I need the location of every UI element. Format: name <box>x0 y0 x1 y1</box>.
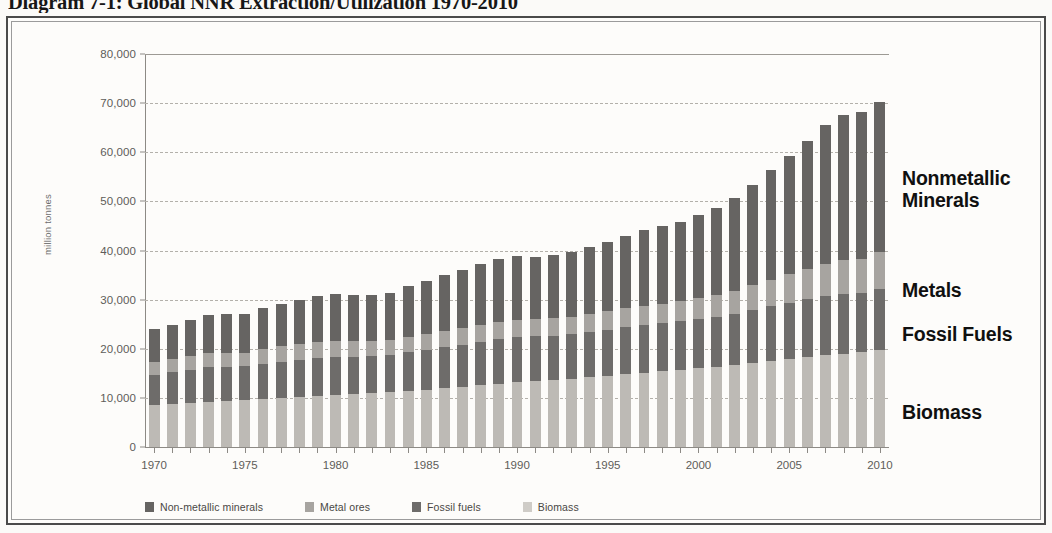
bar-segment-biomass <box>457 387 468 447</box>
x-tick-mark <box>735 448 736 453</box>
bar-segment-biomass <box>348 394 359 447</box>
bar-segment-nonmet <box>457 270 468 328</box>
legend-item-1[interactable]: Metal ores <box>305 501 370 513</box>
bar-1980[interactable] <box>330 294 341 447</box>
bar-1979[interactable] <box>312 296 323 447</box>
bar-1995[interactable] <box>602 242 613 447</box>
bar-segment-biomass <box>403 391 414 447</box>
y-tick-mark <box>140 250 145 251</box>
bar-1983[interactable] <box>385 293 396 447</box>
bar-segment-fossil <box>475 342 486 385</box>
bar-segment-nonmet <box>439 275 450 331</box>
bar-1978[interactable] <box>294 300 305 447</box>
bar-segment-fossil <box>620 327 631 374</box>
y-tick-mark <box>140 54 145 55</box>
bar-1997[interactable] <box>639 230 650 447</box>
bar-1982[interactable] <box>366 295 377 447</box>
bar-1984[interactable] <box>403 286 414 447</box>
bar-1993[interactable] <box>566 252 577 447</box>
bar-1971[interactable] <box>167 325 178 447</box>
bar-1972[interactable] <box>185 320 196 447</box>
bar-1999[interactable] <box>675 222 686 447</box>
bar-1990[interactable] <box>512 256 523 447</box>
bar-1977[interactable] <box>276 304 287 447</box>
bar-segment-nonmet <box>348 295 359 341</box>
x-tick-mark <box>281 448 282 453</box>
bar-segment-nonmet <box>820 125 831 264</box>
bar-1986[interactable] <box>439 275 450 447</box>
legend-label: Fossil fuels <box>427 501 481 513</box>
bar-2006[interactable] <box>802 141 813 447</box>
x-tick-mark <box>426 448 427 453</box>
bar-2000[interactable] <box>693 215 704 447</box>
bar-segment-biomass <box>221 401 232 447</box>
bar-segment-nonmet <box>475 264 486 325</box>
bar-1994[interactable] <box>584 247 595 447</box>
bar-2007[interactable] <box>820 125 831 447</box>
bar-1975[interactable] <box>239 314 250 447</box>
bar-2002[interactable] <box>729 198 740 447</box>
bar-segment-biomass <box>693 368 704 447</box>
bar-segment-metal <box>403 337 414 352</box>
bar-2004[interactable] <box>766 170 777 447</box>
bar-1988[interactable] <box>475 264 486 447</box>
bar-segment-fossil <box>294 360 305 398</box>
x-tick-mark <box>209 448 210 453</box>
y-tick-mark <box>140 397 145 398</box>
bar-segment-metal <box>475 325 486 342</box>
bar-segment-biomass <box>149 405 160 447</box>
bar-1976[interactable] <box>258 308 269 447</box>
x-tick-label: 1995 <box>595 459 621 471</box>
x-tick-mark <box>862 448 863 453</box>
bar-segment-nonmet <box>711 208 722 295</box>
bar-segment-metal <box>348 341 359 356</box>
y-tick-label: 70,000 <box>100 97 136 109</box>
bar-segment-biomass <box>330 395 341 447</box>
bar-segment-nonmet <box>366 295 377 341</box>
plot-inner: 010,00020,00030,00040,00050,00060,00070,… <box>145 54 889 448</box>
x-tick-mark <box>807 448 808 453</box>
bar-segment-biomass <box>276 398 287 447</box>
bar-1998[interactable] <box>657 226 668 447</box>
bar-2009[interactable] <box>856 112 867 447</box>
bar-segment-metal <box>639 306 650 325</box>
bar-segment-metal <box>185 356 196 370</box>
x-tick-mark <box>227 448 228 453</box>
bar-1987[interactable] <box>457 270 468 447</box>
bar-segment-metal <box>421 334 432 350</box>
bar-segment-fossil <box>856 293 867 352</box>
bar-segment-metal <box>820 264 831 296</box>
bar-segment-nonmet <box>149 329 160 362</box>
bar-1985[interactable] <box>421 281 432 447</box>
legend-item-2[interactable]: Fossil fuels <box>412 501 481 513</box>
legend-swatch-icon <box>305 502 314 512</box>
y-tick-label: 30,000 <box>100 294 136 306</box>
bar-2003[interactable] <box>747 185 758 447</box>
bar-1970[interactable] <box>149 329 160 447</box>
bar-segment-nonmet <box>239 314 250 353</box>
bar-2001[interactable] <box>711 208 722 447</box>
legend-item-3[interactable]: Biomass <box>523 501 579 513</box>
bar-2008[interactable] <box>838 115 849 447</box>
x-tick-label: 2010 <box>867 459 893 471</box>
bar-1981[interactable] <box>348 295 359 447</box>
legend-item-0[interactable]: Non-metallic minerals <box>145 501 263 513</box>
bar-segment-metal <box>874 252 885 290</box>
bar-1973[interactable] <box>203 315 214 447</box>
y-tick-label: 0 <box>130 441 137 453</box>
bar-1989[interactable] <box>493 259 504 447</box>
bar-1974[interactable] <box>221 314 232 447</box>
bar-segment-fossil <box>312 358 323 397</box>
bar-1992[interactable] <box>548 255 559 447</box>
bar-2010[interactable] <box>874 102 885 447</box>
bar-segment-nonmet <box>584 247 595 314</box>
bar-segment-biomass <box>530 381 541 447</box>
bar-segment-biomass <box>584 377 595 447</box>
bar-1991[interactable] <box>530 257 541 447</box>
bar-1996[interactable] <box>620 236 631 447</box>
y-tick-label: 20,000 <box>100 343 136 355</box>
bar-2005[interactable] <box>784 156 795 447</box>
bar-segment-biomass <box>747 363 758 447</box>
bar-segment-metal <box>675 301 686 321</box>
bar-segment-biomass <box>294 397 305 447</box>
